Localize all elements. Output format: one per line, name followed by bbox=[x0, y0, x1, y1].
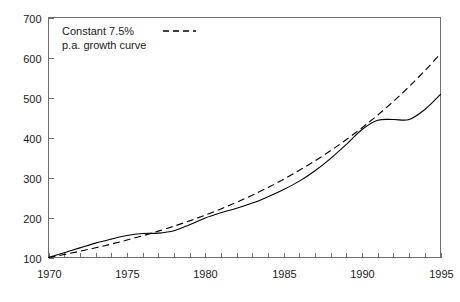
x-tick-label: 1980 bbox=[193, 268, 217, 280]
x-tick-label: 1985 bbox=[272, 268, 296, 280]
legend-label-line1: Constant 7.5% bbox=[62, 25, 134, 37]
chart-container: 100200300400500600700 197019751980198519… bbox=[0, 0, 460, 302]
y-tick-label: 200 bbox=[23, 213, 41, 225]
x-tick-label: 1995 bbox=[429, 268, 453, 280]
legend-label-line2: p.a. growth curve bbox=[62, 39, 146, 51]
y-tick-label: 600 bbox=[23, 53, 41, 65]
x-tick-label: 1975 bbox=[115, 268, 139, 280]
x-tick-label: 1970 bbox=[37, 268, 61, 280]
x-tick-label: 1990 bbox=[350, 268, 374, 280]
y-tick-label: 300 bbox=[23, 173, 41, 185]
y-tick-label: 400 bbox=[23, 133, 41, 145]
y-tick-label: 100 bbox=[23, 253, 41, 265]
y-tick-label: 700 bbox=[23, 13, 41, 25]
y-tick-label: 500 bbox=[23, 93, 41, 105]
line-chart: 100200300400500600700 197019751980198519… bbox=[0, 0, 460, 302]
